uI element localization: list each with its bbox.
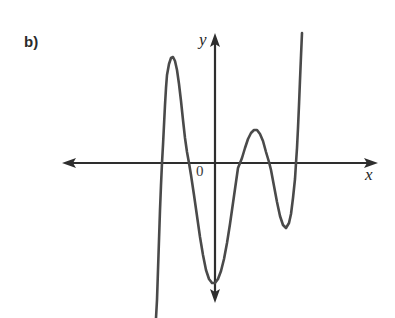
x-axis-label: x <box>365 165 373 185</box>
panel-label: b) <box>24 33 38 50</box>
origin-label: 0 <box>196 163 204 180</box>
y-axis-label: y <box>199 30 207 50</box>
figure-container: b) y x 0 <box>0 0 395 318</box>
figure-background <box>0 0 395 318</box>
coordinate-plane-figure <box>0 0 395 318</box>
